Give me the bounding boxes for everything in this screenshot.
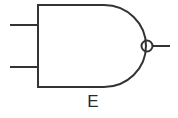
nand-gate-body (38, 5, 146, 87)
inversion-bubble (142, 41, 153, 52)
gate-label: E (83, 92, 103, 112)
